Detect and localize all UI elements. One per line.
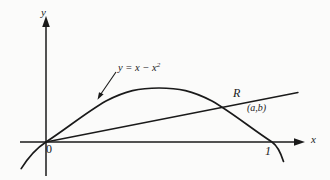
curve-equation-exponent: 2 <box>157 61 161 69</box>
x-tick-label-one: 1 <box>265 145 271 157</box>
x-axis-arrowhead <box>294 138 305 146</box>
origin-label: 0 <box>46 143 52 155</box>
curve-equation-text: y = x − x <box>118 62 157 73</box>
parabola-curve <box>21 88 283 169</box>
point-coordinates-label: (a,b) <box>247 103 266 113</box>
intersection-point-label: R <box>233 87 240 99</box>
curve-equation-label: y = x − x2 <box>118 63 160 74</box>
y-axis-label: y <box>41 7 46 18</box>
x-axis-label: x <box>311 134 316 145</box>
curve-label-pointer-arrow <box>98 72 117 100</box>
